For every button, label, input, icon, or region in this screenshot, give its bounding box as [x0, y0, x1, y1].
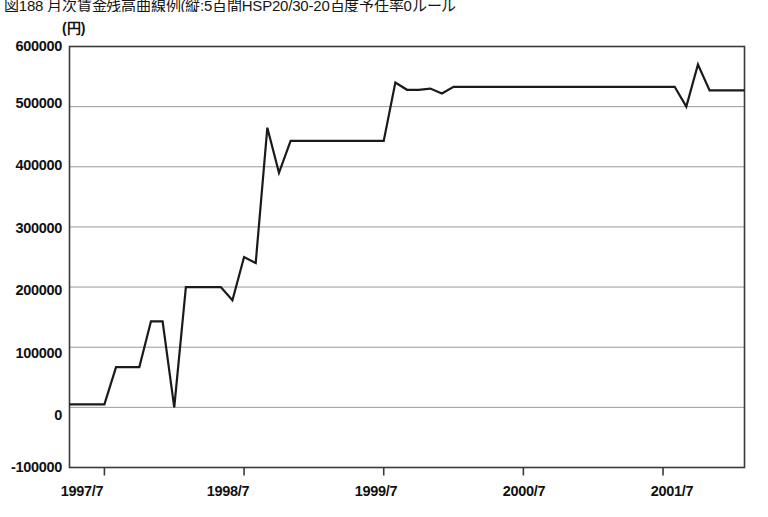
data-line-series-0	[70, 65, 745, 408]
plot-area	[0, 0, 768, 517]
gridlines	[70, 107, 745, 408]
x-tick-marks	[104, 468, 663, 476]
plot-frame	[70, 47, 745, 468]
chart-figure: 図188 月次賃金残高曲線例(縦:5百間HSP20/30-20百度予任率0ルール…	[0, 0, 768, 517]
